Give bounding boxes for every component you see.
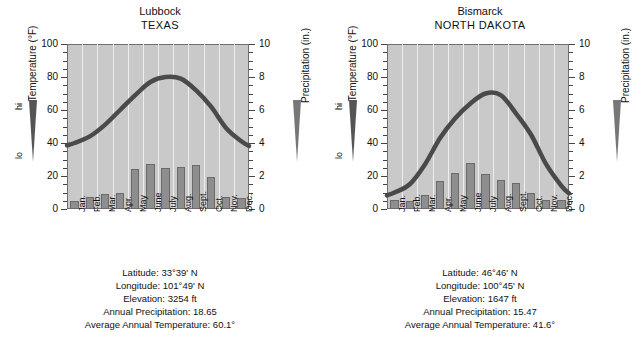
axis-minor-tick <box>383 160 387 161</box>
temperature-tick-label: 20 <box>367 171 378 181</box>
temperature-tick-label: 100 <box>41 39 58 49</box>
caption-annual-precipitation: Annual Precipitation: 15.47 <box>320 305 640 318</box>
axis-minor-tick <box>569 160 573 161</box>
month-label: Feb. <box>93 194 102 212</box>
precipitation-tick-label: 6 <box>259 105 265 115</box>
axis-minor-tick <box>383 94 387 95</box>
temperature-tick-label: 80 <box>47 72 58 82</box>
temperature-tick-label: 100 <box>361 39 378 49</box>
axis-minor-tick <box>383 85 387 86</box>
axis-minor-tick <box>249 160 253 161</box>
axis-minor-tick <box>63 184 67 185</box>
temperature-tick-label: 0 <box>52 204 58 214</box>
axis-minor-tick <box>383 193 387 194</box>
axis-minor-tick <box>569 94 573 95</box>
temperature-tick-label: 60 <box>367 105 378 115</box>
temperature-tick-label: 60 <box>47 105 58 115</box>
axis-minor-tick <box>249 184 253 185</box>
precipitation-tick-label: 6 <box>579 105 585 115</box>
axis-minor-tick <box>249 168 253 169</box>
axis-tick <box>61 176 67 177</box>
month-label: Mar. <box>108 194 117 212</box>
month-label: May <box>139 195 148 212</box>
axis-tick <box>249 143 255 144</box>
precipitation-tick-label: 10 <box>579 39 590 49</box>
temperature-curve-lubbock <box>67 44 249 209</box>
axis-minor-tick <box>569 102 573 103</box>
axis-minor-tick <box>383 69 387 70</box>
axis-tick <box>569 176 575 177</box>
axis-tick <box>569 44 575 45</box>
wedge-lo-label: lo <box>335 152 344 159</box>
axis-tick <box>61 77 67 78</box>
precipitation-tick-label: 8 <box>259 72 265 82</box>
axis-tick <box>249 44 255 45</box>
chart-city-name: Lubbock <box>0 4 320 18</box>
month-label: Aug. <box>184 193 193 212</box>
temperature-curve-bismarck <box>387 44 569 209</box>
month-label: Apr. <box>444 196 453 212</box>
month-label: Dec. <box>565 193 574 212</box>
axis-minor-tick <box>383 127 387 128</box>
precipitation-tick-label: 2 <box>259 171 265 181</box>
axis-tick <box>61 143 67 144</box>
month-label: Oct. <box>215 195 224 212</box>
month-label: Aug. <box>504 193 513 212</box>
axis-minor-tick <box>383 201 387 202</box>
caption-lubbock: Latitude: 33°39' N Longitude: 101°49' N … <box>0 266 320 331</box>
axis-minor-tick <box>569 85 573 86</box>
caption-average-annual-temperature: Average Annual Temperature: 60.1° <box>0 318 320 331</box>
wedge-hi-label: hi <box>335 103 344 110</box>
axis-tick <box>61 110 67 111</box>
axis-minor-tick <box>249 127 253 128</box>
axis-minor-tick <box>383 118 387 119</box>
axis-minor-tick <box>63 85 67 86</box>
wedge-triangle-icon <box>612 100 622 162</box>
y-axis-title-temperature: Temperature (°F) <box>27 4 38 124</box>
axis-minor-tick <box>63 201 67 202</box>
wedge-lo-label: lo <box>15 152 24 159</box>
caption-annual-precipitation: Annual Precipitation: 18.65 <box>0 305 320 318</box>
precipitation-tick-label: 10 <box>259 39 270 49</box>
axis-minor-tick <box>383 168 387 169</box>
temperature-tick-label: 20 <box>47 171 58 181</box>
axis-tick <box>569 77 575 78</box>
caption-average-annual-temperature: Average Annual Temperature: 41.6° <box>320 318 640 331</box>
axis-minor-tick <box>569 69 573 70</box>
axis-minor-tick <box>63 94 67 95</box>
precipitation-tick-label: 0 <box>579 204 585 214</box>
axis-minor-tick <box>569 151 573 152</box>
axis-minor-tick <box>63 61 67 62</box>
climograph-figure: Lubbock TEXAS hi lo Temperature (°F) Pre… <box>0 0 641 350</box>
axis-minor-tick <box>383 151 387 152</box>
axis-minor-tick <box>249 61 253 62</box>
panel-lubbock: Lubbock TEXAS hi lo Temperature (°F) Pre… <box>0 0 320 350</box>
wedge-triangle-icon <box>292 100 302 162</box>
month-label: July <box>169 196 178 212</box>
axis-minor-tick <box>63 151 67 152</box>
month-labels-bismarck: Jan.Feb.Mar.Apr.MayJuneJulyAug.Sept.Oct.… <box>387 212 569 260</box>
chart-state-name: NORTH DAKOTA <box>320 18 640 32</box>
axis-tick <box>61 209 67 210</box>
axis-tick <box>61 44 67 45</box>
axis-minor-tick <box>249 135 253 136</box>
panel-bismarck: Bismarck NORTH DAKOTA hi lo Temperature … <box>320 0 640 350</box>
axis-minor-tick <box>383 102 387 103</box>
precipitation-hi-lo-wedge-bismarck <box>612 100 622 162</box>
precipitation-tick-label: 2 <box>579 171 585 181</box>
month-labels-lubbock: Jan.Feb.Mar.Apr.MayJuneJulyAug.Sept.Oct.… <box>67 212 249 260</box>
plot-area-bismarck <box>387 44 569 209</box>
chart-state-name: TEXAS <box>0 18 320 32</box>
axis-minor-tick <box>383 135 387 136</box>
axis-minor-tick <box>63 69 67 70</box>
axis-minor-tick <box>249 85 253 86</box>
month-label: Apr. <box>124 196 133 212</box>
chart-city-name: Bismarck <box>320 4 640 18</box>
month-label: Oct. <box>535 195 544 212</box>
month-label: Jan. <box>78 195 87 212</box>
plot-area-lubbock <box>67 44 249 209</box>
axis-minor-tick <box>569 184 573 185</box>
axis-minor-tick <box>569 61 573 62</box>
axis-minor-tick <box>569 168 573 169</box>
chart-title-lubbock: Lubbock TEXAS <box>0 4 320 32</box>
